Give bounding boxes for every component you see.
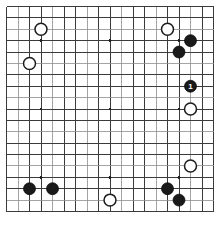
black-stone[interactable] (173, 194, 185, 206)
black-stone[interactable] (162, 183, 174, 195)
go-board[interactable]: 1 (0, 0, 223, 227)
go-board-canvas[interactable]: 1 (0, 0, 223, 227)
star-point-icon (39, 107, 42, 110)
star-point-icon (108, 176, 111, 179)
black-stone[interactable] (24, 183, 36, 195)
white-stone[interactable] (35, 23, 47, 35)
star-point-icon (108, 39, 111, 42)
white-stone[interactable] (185, 160, 197, 172)
star-point-icon (108, 107, 111, 110)
stone-move-number: 1 (188, 82, 193, 91)
white-stone[interactable] (162, 23, 174, 35)
go-diagram-figure: 1 (0, 0, 223, 227)
black-stone[interactable] (185, 35, 197, 47)
black-stone[interactable] (173, 46, 185, 58)
white-stone[interactable] (104, 194, 116, 206)
star-point-icon (39, 176, 42, 179)
star-point-icon (39, 39, 42, 42)
star-point-icon (177, 176, 180, 179)
white-stone[interactable] (185, 103, 197, 115)
black-stone[interactable] (47, 183, 59, 195)
white-stone[interactable] (24, 57, 36, 69)
star-point-icon (177, 107, 180, 110)
star-point-icon (177, 39, 180, 42)
